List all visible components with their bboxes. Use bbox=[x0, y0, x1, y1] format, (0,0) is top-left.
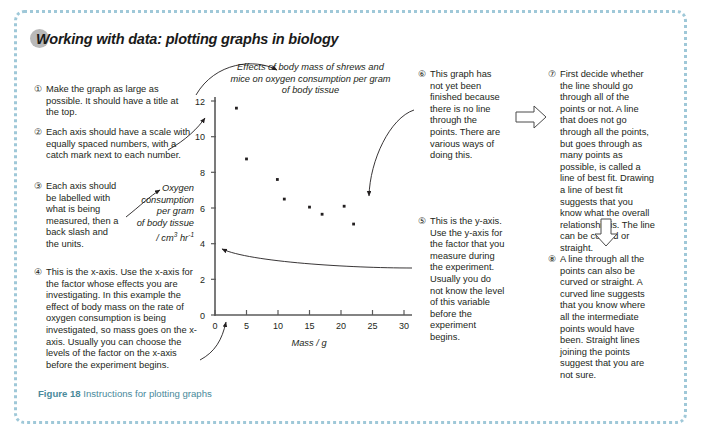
x-axis-ticks: 0 5 10 15 20 25 30 bbox=[212, 310, 409, 331]
svg-text:6: 6 bbox=[200, 204, 205, 214]
data-point bbox=[245, 158, 248, 161]
data-point bbox=[276, 178, 279, 181]
data-point bbox=[321, 213, 324, 216]
svg-text:5: 5 bbox=[244, 321, 249, 331]
svg-text:10: 10 bbox=[273, 321, 283, 331]
arrow-to-chart-title bbox=[196, 64, 277, 95]
scatter-plot: 0 2 4 6 8 10 12 0 5 10 15 20 25 30 Mass … bbox=[195, 97, 412, 349]
arrow-note6-to-points bbox=[369, 110, 414, 196]
figure-title-text: Working with data: plotting graphs in bi… bbox=[36, 31, 338, 47]
svg-text:15: 15 bbox=[304, 321, 314, 331]
svg-text:8: 8 bbox=[200, 168, 205, 178]
block-arrow-note6-to-note7 bbox=[516, 106, 546, 128]
svg-text:0: 0 bbox=[200, 311, 205, 321]
chart-and-arrows-layer: 0 2 4 6 8 10 12 0 5 10 15 20 25 30 Mass … bbox=[0, 0, 701, 435]
svg-text:0: 0 bbox=[212, 321, 217, 331]
svg-text:2: 2 bbox=[200, 275, 205, 285]
data-points bbox=[235, 107, 355, 226]
svg-text:12: 12 bbox=[195, 97, 205, 107]
data-point bbox=[283, 198, 286, 201]
y-axis-ticks: 0 2 4 6 8 10 12 bbox=[195, 97, 216, 321]
svg-text:20: 20 bbox=[336, 321, 346, 331]
data-point bbox=[352, 223, 355, 226]
svg-text:25: 25 bbox=[367, 321, 377, 331]
x-axis-title: Mass / g bbox=[291, 338, 327, 348]
svg-text:4: 4 bbox=[200, 239, 205, 249]
data-point bbox=[343, 205, 346, 208]
figure-title: Working with data: plotting graphs in bi… bbox=[36, 28, 338, 50]
data-point bbox=[235, 107, 238, 110]
svg-text:10: 10 bbox=[195, 132, 205, 142]
arrow-note5-to-yaxis bbox=[222, 249, 412, 268]
block-arrow-note7-to-note8 bbox=[595, 219, 617, 246]
svg-text:30: 30 bbox=[399, 321, 409, 331]
data-point bbox=[308, 206, 311, 209]
arrow-note3-to-ylabel bbox=[126, 190, 160, 217]
